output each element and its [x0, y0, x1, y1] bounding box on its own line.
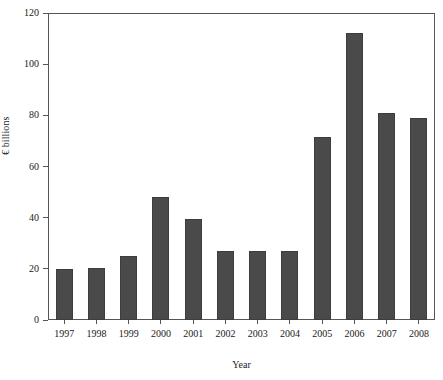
x-tick-label: 2008	[397, 327, 441, 340]
y-axis-title: € billions	[0, 141, 12, 155]
y-tick-mark	[43, 268, 48, 269]
x-tick-mark	[289, 320, 290, 324]
y-tick-label: 100	[24, 57, 39, 70]
bar-chart: € billions 020406080100120 1997199819992…	[0, 0, 443, 380]
y-tick-mark	[43, 217, 48, 218]
y-tick-mark	[43, 320, 48, 321]
x-tick-mark	[64, 320, 65, 324]
y-tick-mark	[43, 64, 48, 65]
y-tick-label: 60	[29, 160, 39, 173]
y-tick-label: 120	[24, 6, 39, 19]
y-tick-label: 20	[29, 262, 39, 275]
x-tick-mark	[418, 320, 419, 324]
x-tick-mark	[354, 320, 355, 324]
x-tick-mark	[322, 320, 323, 324]
x-tick-mark	[128, 320, 129, 324]
x-tick-mark	[386, 320, 387, 324]
y-tick-label: 0	[34, 313, 39, 326]
plot-area	[48, 13, 435, 320]
y-tick-mark	[43, 115, 48, 116]
y-tick-mark	[43, 13, 48, 14]
x-axis-title: Year	[48, 358, 435, 371]
x-tick-mark	[96, 320, 97, 324]
y-tick-label: 80	[29, 108, 39, 121]
x-tick-mark	[225, 320, 226, 324]
y-tick-mark	[43, 166, 48, 167]
x-tick-mark	[160, 320, 161, 324]
y-tick-label: 40	[29, 211, 39, 224]
x-tick-mark	[257, 320, 258, 324]
x-tick-mark	[193, 320, 194, 324]
